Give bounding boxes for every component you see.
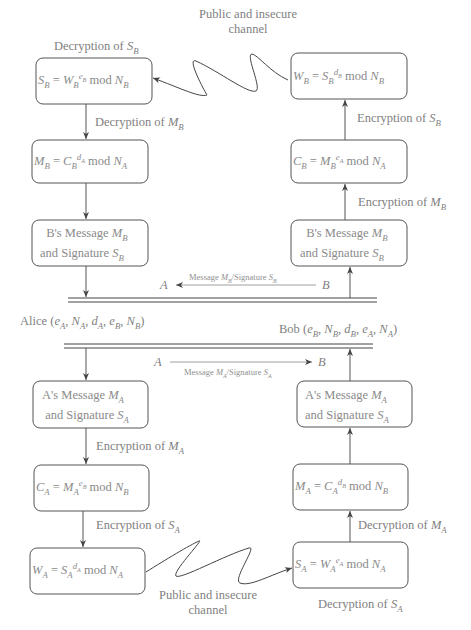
line2: and Signature [300,246,369,260]
label-decryption-sa: Decryption of SA [318,598,403,611]
line2: and Signature [40,246,109,260]
formula-wa-encrypt: WA = SAdA mod NA [32,560,123,580]
mod-op: mod [88,154,110,168]
label-encryption-ma: Encryption of MA [96,440,184,453]
mod-op: mod [89,73,111,87]
message-word: Message [184,367,214,377]
label-text: Decryption of [95,115,165,129]
channel-label-bottom-line1: Public and insecure [159,588,257,602]
label-text: Encryption of [358,195,427,209]
channel-label-bottom-line2: channel [189,603,228,617]
text-b-message-right: B's Message MB and Signature SB [300,223,387,263]
label-encryption-mb: Encryption of MB [358,196,446,209]
alice-keys: Alice (eA, NA, dA, eB, NB) [20,315,144,328]
transfer-bottom-a: A [154,356,162,369]
formula-ca-encrypt: CA = MAeB mod NB [36,477,129,497]
line1: B's Message [46,226,108,240]
mod-op: mod [345,69,367,83]
label-encryption-sa: Encryption of SA [96,519,180,532]
mod-op: mod [90,480,112,494]
line1: A's Message [305,388,368,402]
label-decryption-sb: Decryption of SB [54,40,139,53]
transfer-bottom-b: B [318,356,326,369]
alice-name: Alice [20,314,47,328]
line1: B's Message [306,226,368,240]
channel-label-top: Public and insecure channel [188,7,308,37]
line2: and Signature [45,408,114,422]
line2: and Signature [305,408,374,422]
mod-op: mod [349,479,371,493]
label-decryption-mb: Decryption of MB [95,116,184,129]
party-b: B [318,355,326,369]
label-text: Encryption of [96,518,165,532]
mod-op: mod [347,154,369,168]
transfer-top-label: Message MB/Signature SB [189,273,277,282]
formula-sb-decrypt: SB = WBeB mod NB [38,70,129,90]
transfer-bottom-label: Message MA/Signature SA [184,368,272,377]
signature-word: /Signature [227,367,262,377]
insecure-channel-bottom [146,541,292,584]
party-a: A [154,355,162,369]
formula-sa-decrypt: SA = WAeA mod NA [295,554,386,574]
channel-label-bottom: Public and insecure channel [148,588,268,618]
formula-wb-encrypt: WB = SBdB mod NB [293,66,384,86]
insecure-channel-top [153,54,288,96]
formula-cb-encrypt: CB = MBeA mod NA [293,151,386,171]
channel-label-top-line2: channel [229,22,268,36]
bob-keys: Bob (eB, NB, dB, eA, NA) [279,323,397,336]
mod-op: mod [84,563,106,577]
line1: A's Message [42,388,105,402]
party-a: A [160,278,168,292]
text-b-message-left: B's Message MB and Signature SB [40,223,127,263]
text-a-message-left: A's Message MA and Signature SA [42,385,129,425]
label-text: Decryption of [358,518,428,532]
transfer-top-a: A [160,279,168,292]
message-word: Message [189,272,219,282]
formula-ma-decrypt: MA = CAdB mod NB [295,476,388,496]
label-text: Decryption of [54,39,124,53]
party-b: B [322,278,330,292]
formula-mb-decrypt: MB = CBdA mod NA [34,151,127,171]
mod-op: mod [346,557,368,571]
label-decryption-ma: Decryption of MA [358,519,447,532]
bob-name: Bob [279,322,300,336]
label-text: Decryption of [318,597,388,611]
channel-label-top-line1: Public and insecure [199,7,297,21]
transfer-top-b: B [322,279,330,292]
label-text: Encryption of [357,111,426,125]
label-text: Encryption of [96,439,165,453]
label-encryption-sb: Encryption of SB [357,112,441,125]
signature-word: /Signature [232,272,267,282]
text-a-message-right: A's Message MA and Signature SA [305,385,389,425]
